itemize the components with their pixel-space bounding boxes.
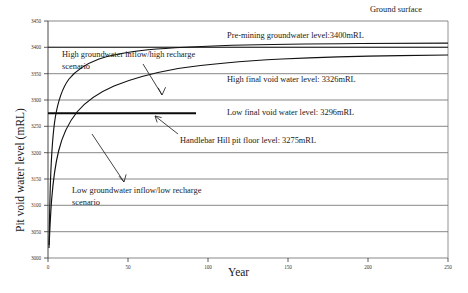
leader-arrow-pit-floor xyxy=(155,116,178,134)
y-tick-label-3450: 3450 xyxy=(19,18,41,24)
x-tick-label-0: 0 xyxy=(36,264,60,270)
annotation-pre-mining-level: Pre-mining groundwater level:3400mRL xyxy=(227,31,364,41)
chart-plot-area xyxy=(0,0,468,293)
y-axis-title: Pit void water level (mRL) xyxy=(14,108,28,232)
y-tick-marks xyxy=(44,21,48,258)
x-tick-label-150: 150 xyxy=(276,264,300,270)
leader-arrow-low-scenario xyxy=(92,134,126,182)
x-tick-label-50: 50 xyxy=(116,264,140,270)
x-tick-label-100: 100 xyxy=(196,264,220,270)
x-tick-label-250: 250 xyxy=(436,264,460,270)
annotation-ground-surface: Ground surface xyxy=(370,5,422,15)
annotation-high-scenario: High groundwater inflow/high recharge sc… xyxy=(62,49,202,73)
y-tick-label-3300: 3300 xyxy=(19,97,41,103)
y-tick-label-3350: 3350 xyxy=(19,71,41,77)
annotation-high-final-level: High final void water level: 3326mRL xyxy=(227,75,356,85)
y-tick-label-3000: 3000 xyxy=(19,255,41,261)
annotation-low-final-level: Low final void water level: 3296mRL xyxy=(227,108,354,118)
annotation-low-scenario: Low groundwater inflow/low recharge scen… xyxy=(72,185,212,209)
chart-figure: 3450 3400 3350 3300 3250 3200 3150 3100 … xyxy=(0,0,468,293)
x-axis-title: Year xyxy=(228,266,249,280)
annotation-pit-floor-level: Handlebar Hill pit floor level: 3275mRL xyxy=(180,136,316,146)
y-tick-label-3400: 3400 xyxy=(19,44,41,50)
x-tick-marks xyxy=(48,258,448,262)
x-tick-label-200: 200 xyxy=(356,264,380,270)
